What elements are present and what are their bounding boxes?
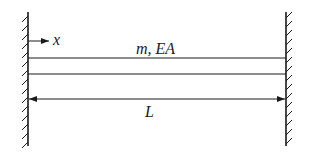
right-fixed-support <box>286 12 292 146</box>
bar <box>28 58 286 74</box>
left-fixed-support <box>22 12 28 148</box>
bar-properties-label: m, EA <box>136 40 175 57</box>
left-hatch-icon <box>22 16 28 148</box>
length-label: L <box>144 103 154 120</box>
right-hatch-icon <box>286 12 292 144</box>
bar-diagram: x m, EA L <box>0 0 309 157</box>
x-axis-label: x <box>52 31 60 48</box>
